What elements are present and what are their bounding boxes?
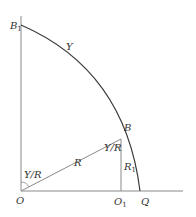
label-R: R: [73, 157, 82, 168]
label-angle-at-O: Y/R: [24, 169, 42, 180]
geometry-diagram: B1 Y B Y/R R R1 Y/R O O1 Q: [0, 0, 196, 217]
angle-arc-O: [21, 182, 29, 187]
label-O1: O1: [114, 196, 127, 209]
label-angle-at-B: Y/R: [104, 142, 122, 153]
label-O: O: [16, 195, 24, 206]
label-R1: R1: [123, 161, 136, 174]
label-Q: Q: [141, 196, 149, 207]
label-B: B: [123, 122, 131, 133]
label-Y: Y: [66, 41, 74, 52]
label-B1: B1: [9, 20, 22, 33]
